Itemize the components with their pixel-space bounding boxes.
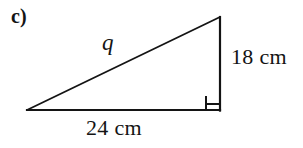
figure-container: c) q 18 cm 24 cm <box>0 0 303 148</box>
triangle-diagram <box>0 0 303 148</box>
triangle-hypotenuse <box>27 17 220 110</box>
vertical-leg-label: 18 cm <box>231 46 287 68</box>
part-label: c) <box>11 6 27 26</box>
base-leg-label: 24 cm <box>86 117 142 139</box>
hypotenuse-label: q <box>102 31 114 54</box>
